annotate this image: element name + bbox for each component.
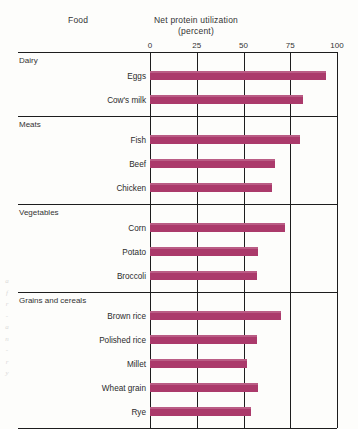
- group-separator: [18, 52, 337, 53]
- gridline: [197, 52, 198, 428]
- bar-row-label: Cow's milk: [107, 96, 146, 105]
- margin-bleed-char: f: [1, 288, 13, 300]
- bar: [150, 159, 275, 168]
- margin-bleed-char: r: [1, 299, 13, 311]
- margin-bleed-char: a: [1, 276, 13, 288]
- x-tick-label: 75: [286, 41, 295, 50]
- bar: [150, 247, 258, 256]
- margin-bleed-text: afr-an-ry: [1, 276, 13, 380]
- bar-row-label: Wheat grain: [102, 384, 146, 393]
- margin-bleed-char: -: [1, 311, 13, 323]
- group-title: Vegetables: [19, 208, 59, 217]
- gridline: [244, 52, 245, 428]
- bar: [150, 271, 257, 280]
- group-title: Meats: [19, 120, 41, 129]
- bar-row-label: Polished rice: [99, 336, 146, 345]
- margin-bleed-char: a: [1, 322, 13, 334]
- bar-row-label: Rye: [131, 408, 146, 417]
- x-tick-label: 25: [192, 41, 201, 50]
- bar-row-label: Fish: [131, 136, 146, 145]
- axis-title-line1: Net protein utilization: [154, 15, 238, 25]
- bar-row-label: Millet: [127, 360, 146, 369]
- margin-bleed-char: y: [1, 368, 13, 380]
- gridline: [337, 52, 338, 428]
- bar-row-label: Chicken: [116, 184, 146, 193]
- bar: [150, 311, 281, 320]
- gridline: [150, 52, 151, 428]
- group-separator: [18, 204, 337, 205]
- bar: [150, 95, 303, 104]
- axis-title-line2: (percent): [178, 26, 214, 36]
- x-tick-label: 0: [148, 41, 152, 50]
- group-title: Grains and cereals: [19, 296, 86, 305]
- bar: [150, 135, 300, 144]
- bar: [150, 71, 326, 80]
- bar: [150, 223, 285, 232]
- bar-row-label: Corn: [128, 224, 146, 233]
- bar: [150, 183, 272, 192]
- gridline: [290, 52, 291, 428]
- group-separator: [18, 292, 337, 293]
- bar: [150, 335, 257, 344]
- bar-row-label: Brown rice: [107, 312, 146, 321]
- group-title: Dairy: [19, 56, 38, 65]
- x-tick-label: 100: [330, 41, 343, 50]
- bar-row-label: Eggs: [127, 72, 146, 81]
- margin-bleed-char: n: [1, 334, 13, 346]
- margin-bleed-char: -: [1, 345, 13, 357]
- bar-row-label: Beef: [129, 160, 146, 169]
- bar-row-label: Broccoli: [117, 272, 146, 281]
- bar: [150, 383, 258, 392]
- margin-bleed-char: r: [1, 357, 13, 369]
- food-column-header: Food: [68, 15, 88, 25]
- group-separator: [18, 116, 337, 117]
- bar: [150, 407, 251, 416]
- bar-row-label: Potato: [122, 248, 146, 257]
- x-tick-label: 50: [239, 41, 248, 50]
- bar: [150, 359, 247, 368]
